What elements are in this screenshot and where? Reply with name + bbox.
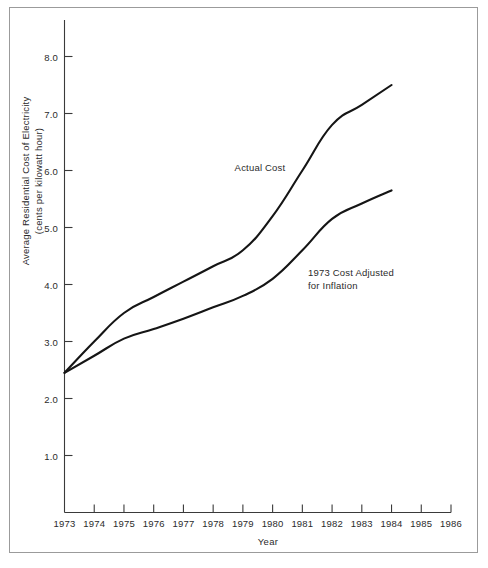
x-axis-tick-label: 1983 [351,518,373,529]
x-axis-tick-label: 1974 [83,518,105,529]
x-axis-tick-label: 1977 [172,518,194,529]
x-axis-tick-label: 1984 [381,518,403,529]
y-axis-tick-label: 3.0 [30,336,58,347]
y-axis-title-line-2: (cents per kilowatt hour) [33,66,46,296]
y-axis-ticks [65,57,73,456]
y-axis-tick-label: 8.0 [30,51,58,62]
x-axis-tick-label: 1986 [440,518,462,529]
x-axis-tick-label: 1982 [321,518,343,529]
chart-plot-area: 1.02.03.04.05.06.07.08.0 197319741975197… [0,0,488,568]
x-axis-tick-label: 1985 [410,518,432,529]
y-axis-tick-label: 1.0 [30,450,58,461]
x-axis-title: Year [258,536,278,547]
series-line-actual-cost [65,85,392,373]
x-axis-tick-label: 1975 [113,518,135,529]
y-axis-title-line-1: Average Residential Cost of Electricity [20,66,33,296]
x-axis-tick-label: 1979 [232,518,254,529]
x-axis-tick-label: 1981 [291,518,313,529]
annotation-adjusted-cost: 1973 Cost Adjusted for Inflation [308,267,394,292]
annotation-adjusted-cost-line-1: 1973 Cost Adjusted [308,267,394,278]
x-axis-tick-label: 1973 [54,518,76,529]
x-axis-ticks [94,505,451,513]
x-axis-tick-label: 1978 [202,518,224,529]
y-axis-tick-label: 2.0 [30,393,58,404]
chart-canvas [0,0,488,568]
annotation-adjusted-cost-line-2: for Inflation [308,280,358,291]
x-axis-tick-label: 1980 [262,518,284,529]
y-axis-title: Average Residential Cost of Electricity … [20,66,45,296]
annotation-actual-cost: Actual Cost [235,162,286,175]
x-axis-tick-label: 1976 [143,518,165,529]
